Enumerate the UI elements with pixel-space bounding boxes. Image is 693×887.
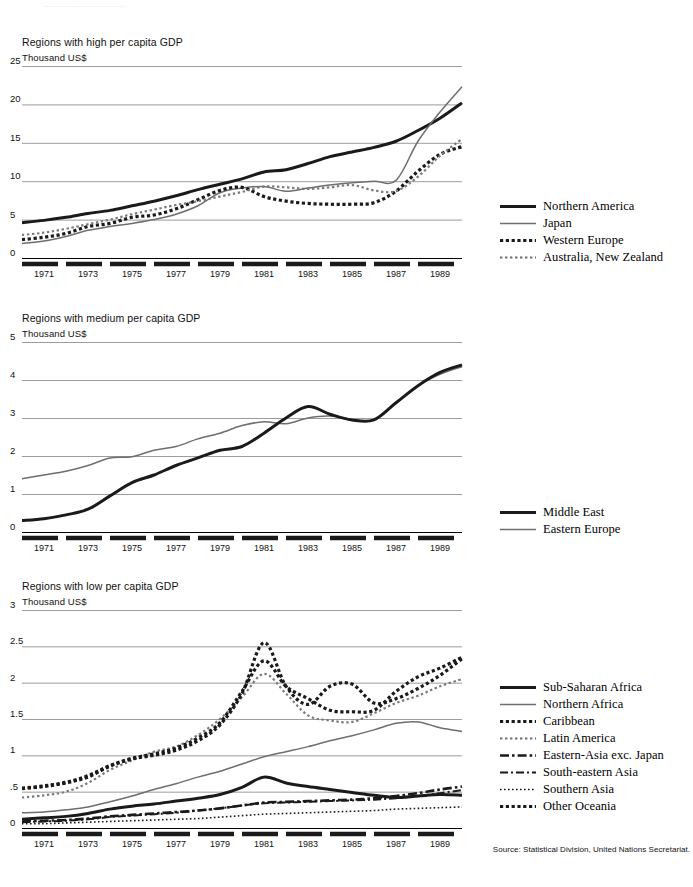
x-tick-label: 1981 [244,269,284,279]
x-tick-label: 1977 [156,839,196,849]
x-tick-label: 1979 [200,269,240,279]
x-tick-label: 1983 [288,269,328,279]
x-tick-label: 1975 [112,543,152,553]
legend-swatch-line-icon [500,801,536,812]
legend-swatch-line-icon [500,235,536,246]
legend-swatch-line-icon [500,507,536,518]
legend-swatch-line-icon [500,682,536,693]
y-tick-label: 15 [10,132,24,143]
x-tick-label: 1981 [244,543,284,553]
panel-unit-high: Thousand US$ [22,52,87,63]
legend-item-label: Western Europe [543,233,624,248]
legend-high: Northern AmericaJapanWestern EuropeAustr… [500,198,663,266]
legend-item-label: Southern Asia [543,782,614,797]
x-tick-label: 1973 [68,543,108,553]
legend-item-label: Northern Africa [543,697,623,712]
legend-item[interactable]: Eastern-Asia exc. Japan [500,747,664,764]
legend-swatch-line-icon [500,524,536,535]
x-tick-label: 1973 [68,269,108,279]
legend-item[interactable]: Western Europe [500,232,663,249]
x-tick-label: 1989 [420,269,460,279]
x-tick-label: 1971 [24,269,64,279]
legend-swatch-line-icon [500,716,536,727]
y-tick-label: 2 [10,672,24,683]
panel-title-high: Regions with high per capita GDP [22,36,183,48]
x-tick-label: 1979 [200,543,240,553]
x-tick-label: 1987 [376,269,416,279]
legend-item-label: Northern America [543,199,634,214]
series-line [22,807,462,824]
legend-item[interactable]: Middle East [500,504,620,521]
y-tick-label: 1 [10,483,24,494]
x-tick-label: 1989 [420,543,460,553]
legend-item-label: Other Oceania [543,799,616,814]
plot-area-high [22,66,464,284]
plot-area-medium [22,342,464,558]
legend-item-label: Caribbean [543,714,595,729]
legend-item-label: South-eastern Asia [543,765,638,780]
panel-title-medium: Regions with medium per capita GDP [22,312,200,324]
legend-swatch-line-icon [500,767,536,778]
legend-item-label: Japan [543,216,572,231]
panel-title-low: Regions with low per capita GDP [22,580,179,592]
legend-low: Sub-Saharan AfricaNorthern AfricaCaribbe… [500,679,664,815]
legend-item[interactable]: Southern Asia [500,781,664,798]
x-tick-label: 1973 [68,839,108,849]
x-tick-label: 1987 [376,543,416,553]
legend-item[interactable]: Eastern Europe [500,521,620,538]
y-tick-label: .5 [10,781,24,792]
chart-svg-medium [22,342,464,558]
legend-item-label: Middle East [543,505,604,520]
x-tick-label: 1985 [332,839,372,849]
chart-panel-high: Regions with high per capita GDP Thousan… [0,0,693,300]
series-line [22,643,462,789]
legend-swatch-line-icon [500,252,536,263]
y-tick-label: 1 [10,744,24,755]
legend-swatch-line-icon [500,699,536,710]
x-tick-label: 1977 [156,269,196,279]
legend-swatch-line-icon [500,218,536,229]
y-tick-label: 2 [10,445,24,456]
panel-unit-low: Thousand US$ [22,596,87,607]
series-line [22,147,462,240]
x-tick-label: 1983 [288,543,328,553]
legend-swatch-line-icon [500,784,536,795]
series-line [22,103,462,223]
x-tick-label: 1979 [200,839,240,849]
y-tick-label: 20 [10,93,24,104]
legend-item[interactable]: Northern America [500,198,663,215]
legend-item-label: Australia, New Zealand [543,250,663,265]
y-tick-label: 4 [10,369,24,380]
y-tick-label: 0 [10,247,24,258]
legend-item[interactable]: Sub-Saharan Africa [500,679,664,696]
y-tick-label: 0 [10,521,24,532]
legend-item[interactable]: Caribbean [500,713,664,730]
legend-item[interactable]: Australia, New Zealand [500,249,663,266]
x-tick-label: 1975 [112,839,152,849]
legend-item[interactable]: Other Oceania [500,798,664,815]
series-line [22,367,462,479]
plot-area-low [22,610,464,854]
legend-item[interactable]: Northern Africa [500,696,664,713]
legend-item[interactable]: Japan [500,215,663,232]
x-tick-label: 1985 [332,269,372,279]
y-tick-label: 5 [10,209,24,220]
y-tick-label: 3 [10,407,24,418]
source-note: Source: Statistical Division, United Nat… [493,845,690,854]
chart-panel-low: Regions with low per capita GDP Thousand… [0,575,693,887]
x-tick-label: 1987 [376,839,416,849]
x-tick-label: 1971 [24,543,64,553]
legend-item-label: Sub-Saharan Africa [543,680,642,695]
chart-page: ...................................... R… [0,0,693,887]
legend-item[interactable]: South-eastern Asia [500,764,664,781]
legend-item-label: Eastern-Asia exc. Japan [543,748,664,763]
x-tick-label: 1971 [24,839,64,849]
legend-item[interactable]: Latin America [500,730,664,747]
legend-medium: Middle EastEastern Europe [500,504,620,538]
chart-svg-low [22,610,464,854]
legend-swatch-line-icon [500,733,536,744]
x-tick-label: 1975 [112,269,152,279]
y-tick-label: 5 [10,331,24,342]
y-tick-label: 25 [10,55,24,66]
series-line [22,365,462,521]
